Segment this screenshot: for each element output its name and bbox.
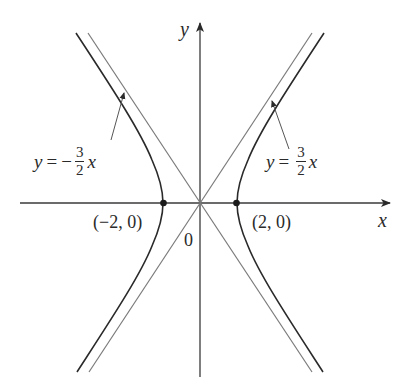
vertex-right-dot bbox=[233, 200, 240, 207]
eq-left-denominator: 2 bbox=[76, 162, 84, 178]
eq-right-numerator: 3 bbox=[296, 145, 306, 162]
origin-label: 0 bbox=[184, 231, 193, 249]
eq-right-var: x bbox=[309, 152, 317, 171]
eq-right-equals: = bbox=[278, 152, 289, 171]
eq-right-denominator: 2 bbox=[297, 162, 305, 178]
leader-left bbox=[111, 93, 124, 140]
plot-canvas bbox=[0, 0, 412, 391]
eq-left-var: x bbox=[87, 152, 95, 171]
eq-right-fraction: 3 2 bbox=[296, 145, 306, 178]
eq-left-fraction: 3 2 bbox=[75, 145, 85, 178]
eq-left-sign: − bbox=[61, 152, 72, 171]
vertex-left-label: (−2, 0) bbox=[93, 213, 142, 231]
leader-right bbox=[272, 101, 289, 149]
y-axis-label: y bbox=[180, 19, 189, 39]
vertex-right-label: (2, 0) bbox=[252, 213, 291, 231]
asymptote-left-equation: y = − 3 2 x bbox=[34, 145, 96, 178]
hyperbola-figure: y x 0 (−2, 0) (2, 0) y = − 3 2 x y = 3 2… bbox=[0, 0, 412, 391]
eq-right-lhs: y bbox=[266, 152, 274, 171]
x-axis-label: x bbox=[378, 210, 387, 230]
asymptote-right-equation: y = 3 2 x bbox=[266, 145, 317, 178]
eq-left-equals: = bbox=[46, 152, 57, 171]
vertex-left-dot bbox=[160, 200, 167, 207]
eq-left-numerator: 3 bbox=[75, 145, 85, 162]
eq-left-lhs: y bbox=[34, 152, 42, 171]
